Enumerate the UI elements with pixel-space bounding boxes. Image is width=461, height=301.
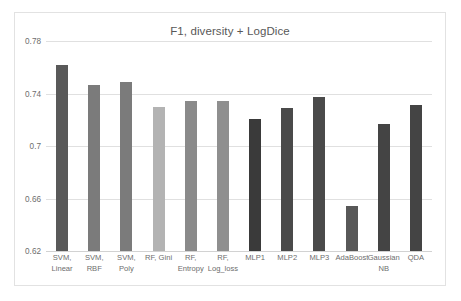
- x-axis-tick-label: RF, Gini: [143, 253, 175, 264]
- bar: [313, 97, 325, 251]
- x-axis-tick-label: QDA: [400, 253, 432, 264]
- x-axis-tick-label: RF, Entropy: [175, 253, 207, 274]
- bar: [217, 101, 229, 251]
- bar: [281, 108, 293, 251]
- chart-figure: F1, diversity + LogDice 0.620.660.70.740…: [14, 12, 446, 286]
- bar: [153, 107, 165, 251]
- plot-area: 0.620.660.70.740.78: [46, 41, 432, 251]
- bars-layer: [46, 41, 432, 251]
- chart-title: F1, diversity + LogDice: [15, 25, 445, 37]
- x-axis-tick-label: SVM, Poly: [110, 253, 142, 274]
- x-axis-tick-label: Gaussian NB: [368, 253, 400, 274]
- y-axis-tick-label: 0.74: [25, 89, 41, 98]
- bar: [410, 105, 422, 251]
- y-axis-tick-label: 0.78: [25, 37, 41, 46]
- y-axis-tick-label: 0.66: [25, 194, 41, 203]
- x-axis-tick-label: SVM, RBF: [78, 253, 110, 274]
- x-axis-tick-label: RF, Log_loss: [207, 253, 239, 274]
- bar: [120, 82, 132, 251]
- x-axis-tick-label: MLP2: [271, 253, 303, 264]
- bar: [88, 85, 100, 251]
- bar: [56, 65, 68, 251]
- x-axis-labels: SVM, LinearSVM, RBFSVM, PolyRF, GiniRF, …: [46, 253, 432, 285]
- y-axis-tick-label: 0.62: [25, 247, 41, 256]
- x-axis-tick-label: MLP3: [303, 253, 335, 264]
- bar: [249, 119, 261, 251]
- x-axis-tick-label: SVM, Linear: [46, 253, 78, 274]
- y-axis-tick-label: 0.7: [30, 142, 41, 151]
- gridline: [46, 251, 432, 252]
- bar: [185, 101, 197, 251]
- x-axis-tick-label: MLP1: [239, 253, 271, 264]
- bar: [378, 124, 390, 251]
- bar: [346, 206, 358, 251]
- x-axis-tick-label: AdaBoost: [336, 253, 368, 264]
